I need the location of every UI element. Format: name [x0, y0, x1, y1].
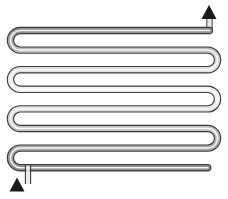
outlet-group: [202, 5, 217, 30]
triangle-up-icon-outlet: [202, 5, 217, 19]
triangle-up-icon-inlet: [10, 178, 25, 192]
coil-diagram-canvas: [0, 0, 228, 199]
serpentine-tube: [10, 31, 217, 168]
coil-diagram-figure: Serpentine Coil Tube Diagram Serpentine …: [0, 0, 228, 199]
tube-core: [10, 31, 217, 168]
